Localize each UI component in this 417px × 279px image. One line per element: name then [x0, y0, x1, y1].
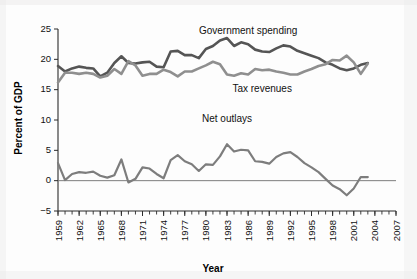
x-tick-label: 1983 — [222, 220, 233, 241]
label-government-spending: Government spending — [199, 25, 297, 36]
x-tick-label: 1965 — [95, 220, 106, 241]
y-tick-label: 15 — [40, 83, 51, 94]
y-tick-label: 25 — [40, 23, 51, 34]
x-tick-label: 1962 — [74, 220, 85, 241]
x-tick-label: 1998 — [327, 220, 338, 241]
y-tick-label: 0 — [46, 174, 51, 185]
x-tick-label: 1995 — [306, 220, 317, 241]
x-tick-label: 1989 — [264, 220, 275, 241]
label-net-outlays: Net outlays — [202, 113, 252, 124]
line-chart-svg: 2520151050−5 195919621965196819711974197… — [0, 0, 417, 279]
y-tick-label: 10 — [40, 114, 51, 125]
series-line-government-spending — [58, 38, 368, 76]
x-tick-label: 1992 — [285, 220, 296, 241]
y-tick-label: 20 — [40, 53, 51, 64]
x-tick-label: 2001 — [348, 220, 359, 241]
x-tick-label: 1980 — [200, 220, 211, 241]
x-tick-label: 2004 — [369, 220, 380, 241]
y-tick-group: 2520151050−5 — [40, 23, 58, 216]
x-tick-label: 1986 — [243, 220, 254, 241]
series-line-net-outlays — [58, 144, 368, 195]
x-tick-group: 1959196219651968197119741977198019831986… — [53, 211, 402, 241]
x-tick-label: 1959 — [53, 220, 64, 241]
chart-figure: 2520151050−5 195919621965196819711974197… — [0, 0, 417, 279]
label-tax-revenues: Tax revenues — [232, 83, 291, 94]
x-tick-label: 1971 — [137, 220, 148, 241]
x-tick-label: 1977 — [179, 220, 190, 241]
x-axis-title: Year — [202, 263, 223, 274]
x-tick-label: 2007 — [391, 220, 402, 241]
x-tick-label: 1974 — [158, 220, 169, 241]
y-tick-label: 5 — [46, 144, 51, 155]
y-tick-label: −5 — [40, 205, 51, 216]
y-axis-title: Percent of GDP — [13, 81, 24, 155]
x-tick-label: 1968 — [116, 220, 127, 241]
